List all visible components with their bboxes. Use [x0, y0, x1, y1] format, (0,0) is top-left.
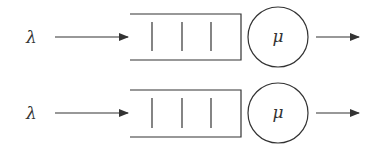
service-rate-label: μ [272, 102, 283, 122]
arrival-rate-label: λ [25, 27, 37, 47]
queue-row-2: λ μ [25, 83, 359, 143]
service-rate-label: μ [272, 26, 283, 46]
queue-row-1: λ μ [25, 7, 359, 67]
queue-buffer [130, 90, 241, 137]
queue-buffer [130, 14, 241, 60]
arrival-rate-label: λ [25, 103, 37, 123]
queue-diagram: λ μ λ μ [0, 0, 379, 152]
